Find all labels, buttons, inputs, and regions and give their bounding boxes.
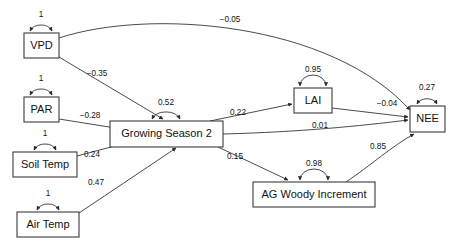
self-loop-agwi-path (300, 169, 328, 180)
self-loop-gs2-path (152, 112, 180, 119)
node-growing-season-2[interactable]: Growing Season 2 (110, 121, 223, 147)
edge-vpd-nee: −0.05 (59, 15, 410, 110)
self-loop-lai: 0.95 (300, 65, 326, 86)
self-loop-vpd-path (30, 25, 52, 31)
node-soil-temp-label: Soil Temp (21, 158, 69, 170)
edge-par-gs2-label: −0.28 (80, 111, 101, 120)
node-soil-temp[interactable]: Soil Temp (13, 152, 77, 177)
edge-gs2-agwi: 0.15 (218, 147, 288, 180)
edge-gs2-nee: 0.01 (223, 120, 408, 134)
edge-gs2-lai-path (210, 104, 292, 121)
edge-lai-nee-label: −0.04 (377, 99, 398, 108)
node-lai-label: LAI (305, 94, 322, 106)
node-par[interactable]: PAR (24, 97, 59, 122)
node-vpd-label: VPD (30, 39, 53, 51)
self-loop-par-label: 1 (39, 74, 44, 83)
edge-lai-nee: −0.04 (332, 99, 408, 117)
self-loop-air-path (37, 204, 59, 210)
self-loop-vpd: 1 (30, 10, 52, 31)
edge-soil-gs2-label: 0.24 (84, 150, 100, 159)
node-lai[interactable]: LAI (294, 88, 332, 113)
self-loop-lai-label: 0.95 (305, 65, 321, 74)
edge-vpd-gs2-path (59, 57, 163, 119)
self-loop-air-label: 1 (46, 189, 51, 198)
edge-vpd-nee-path (59, 24, 410, 110)
self-loop-soil-path (34, 144, 56, 150)
self-loop-vpd-label: 1 (39, 10, 44, 19)
edge-gs2-lai-label: 0.22 (230, 108, 246, 117)
self-loop-agwi: 0.98 (300, 159, 328, 180)
node-par-label: PAR (31, 103, 53, 115)
self-loop-par-path (30, 89, 52, 95)
node-ag-woody-increment[interactable]: AG Woody Increment (253, 182, 375, 207)
self-loop-air: 1 (37, 189, 59, 210)
nodes-layer: VPD PAR Soil Temp Air Temp Growing Seaso… (13, 33, 445, 237)
path-diagram: −0.05 −0.35 −0.28 0.24 0.47 (0, 0, 457, 250)
edge-vpd-gs2-label: −0.35 (87, 69, 108, 78)
edge-agwi-nee: 0.85 (346, 134, 414, 182)
node-nee[interactable]: NEE (410, 106, 445, 132)
self-loop-par: 1 (30, 74, 52, 95)
edge-agwi-nee-label: 0.85 (370, 142, 386, 151)
node-vpd[interactable]: VPD (24, 33, 59, 58)
node-air-temp[interactable]: Air Temp (17, 212, 79, 237)
sem-canvas: −0.05 −0.35 −0.28 0.24 0.47 (0, 0, 457, 250)
edge-gs2-nee-label: 0.01 (312, 121, 328, 130)
self-loop-soil-label: 1 (43, 129, 48, 138)
node-nee-label: NEE (416, 112, 439, 124)
self-loop-nee-path (417, 99, 437, 104)
edge-lai-nee-path (332, 108, 408, 117)
self-loop-gs2: 0.52 (152, 98, 180, 119)
edge-gs2-lai: 0.22 (210, 104, 292, 121)
node-air-temp-label: Air Temp (26, 218, 69, 230)
self-loop-lai-path (300, 75, 326, 86)
self-loop-soil: 1 (34, 129, 56, 150)
edge-vpd-gs2: −0.35 (59, 57, 163, 119)
edge-gs2-agwi-label: 0.15 (227, 152, 243, 161)
self-loop-gs2-label: 0.52 (158, 98, 174, 107)
edge-vpd-nee-label: −0.05 (220, 15, 241, 24)
self-loop-agwi-label: 0.98 (306, 159, 322, 168)
node-growing-season-2-label: Growing Season 2 (121, 127, 212, 139)
self-loop-nee-label: 0.27 (419, 83, 435, 92)
self-loop-nee: 0.27 (417, 83, 437, 104)
node-ag-woody-increment-label: AG Woody Increment (262, 188, 367, 200)
edge-air-gs2-label: 0.47 (88, 178, 104, 187)
